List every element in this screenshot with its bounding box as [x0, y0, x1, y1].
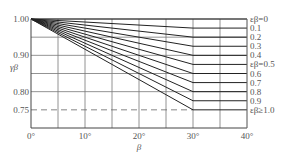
y-tick-label: 0.75: [13, 105, 29, 115]
x-tick-label: 30°: [187, 131, 200, 141]
y-axis-title: γβ: [10, 62, 19, 72]
y-tick-label: 1.00: [13, 14, 29, 24]
series-labels: εβ=00.10.20.30.4εβ=0.50.60.70.80.9εβ≥1.0: [250, 14, 275, 115]
x-tick-label: 0°: [27, 131, 36, 141]
x-tick-label: 20°: [133, 131, 146, 141]
chart: εβ=00.10.20.30.4εβ=0.50.60.70.80.9εβ≥1.0…: [0, 0, 285, 159]
y-tick-label: 0.90: [13, 50, 29, 60]
x-tick-label: 40°: [241, 131, 254, 141]
series-label: εβ≥1.0: [250, 105, 275, 115]
x-tick-label: 10°: [79, 131, 92, 141]
x-axis-title: β: [136, 142, 142, 152]
y-tick-label: 0.80: [13, 87, 29, 97]
